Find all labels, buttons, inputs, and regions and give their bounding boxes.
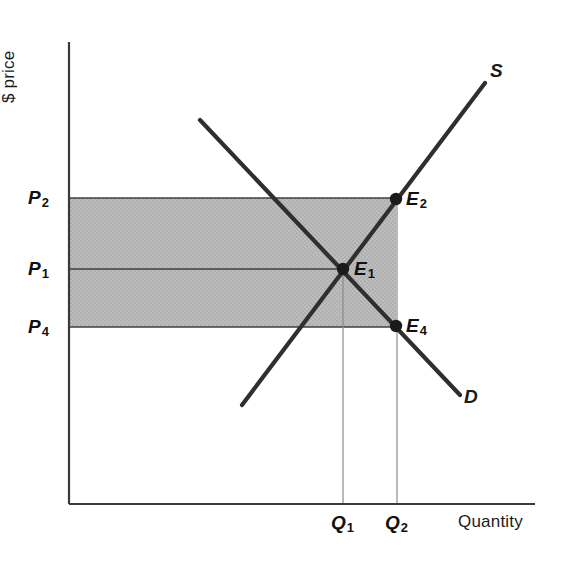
equilibrium-label-e4-letter: E — [406, 315, 419, 336]
quantity-tick-q1-letter: Q — [331, 512, 346, 533]
supply-curve-label: S — [490, 60, 503, 82]
quantity-tick-q2-letter: Q — [385, 512, 400, 533]
chart-canvas — [0, 0, 571, 562]
quantity-tick-q1-subscript: 1 — [347, 520, 354, 535]
equilibrium-point-e4 — [390, 320, 402, 332]
equilibrium-label-e4: E4 — [406, 315, 426, 337]
quantity-tick-q2: Q2 — [385, 512, 407, 534]
equilibrium-label-e2-subscript: 2 — [420, 196, 427, 211]
price-tick-p1: P1 — [28, 258, 48, 280]
quantity-tick-q2-subscript: 2 — [401, 520, 408, 535]
y-axis-title: $ price — [0, 63, 79, 103]
equilibrium-label-e1-letter: E — [354, 258, 367, 279]
demand-curve-label: D — [464, 386, 478, 408]
quantity-tick-q1: Q1 — [331, 512, 353, 534]
price-tick-p2: P2 — [28, 187, 48, 209]
price-tick-p4-subscript: 4 — [42, 324, 49, 339]
equilibrium-label-e1-subscript: 1 — [368, 266, 375, 281]
equilibrium-label-e2-letter: E — [406, 188, 419, 209]
equilibrium-label-e2: E2 — [406, 188, 426, 210]
price-tick-p1-letter: P — [28, 258, 41, 279]
price-tick-p4: P4 — [28, 316, 48, 338]
price-tick-p1-subscript: 1 — [42, 266, 49, 281]
price-tick-p4-letter: P — [28, 316, 41, 337]
price-tick-p2-subscript: 2 — [42, 195, 49, 210]
equilibrium-label-e4-subscript: 4 — [420, 323, 427, 338]
equilibrium-label-e1: E1 — [354, 258, 374, 280]
price-tick-p2-letter: P — [28, 187, 41, 208]
equilibrium-point-e2 — [390, 193, 402, 205]
equilibrium-point-e1 — [337, 263, 349, 275]
supply-demand-figure: $ price Quantity P2 P1 P4 Q1 Q2 E1 E2 E4… — [0, 0, 571, 562]
x-axis-title: Quantity — [458, 512, 523, 532]
